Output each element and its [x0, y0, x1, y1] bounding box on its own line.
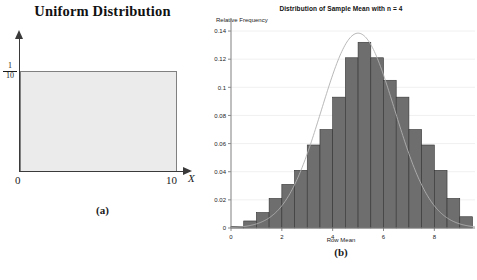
y-axis-ticks: 00.020.040.060.080.10.120.14: [214, 28, 231, 231]
y-tick-label: 0.08: [214, 113, 226, 119]
fraction-denominator: 10: [2, 72, 18, 80]
panel-a-x-variable-label: X: [188, 172, 195, 184]
panel-a-title: Uniform Distribution: [0, 3, 205, 20]
uniform-density-rectangle: [20, 71, 177, 171]
histogram-bar: [422, 145, 435, 228]
panel-b-caption: (b): [205, 246, 477, 258]
y-tick-label: 0: [223, 225, 227, 231]
histogram-bar: [256, 213, 269, 228]
y-tick-label: 0.1: [218, 85, 227, 91]
histogram-bar: [282, 184, 295, 228]
histogram-bar: [434, 170, 447, 228]
histogram-plot: 00.020.040.060.080.10.120.14 02468: [205, 0, 477, 260]
y-tick-label: 0.14: [214, 28, 226, 34]
histogram-bar: [333, 97, 346, 228]
panel-b-x-axis-title: Row Mean: [205, 237, 477, 243]
fraction-numerator: 1: [2, 62, 18, 70]
panel-a-x-tick-label-0: 0: [15, 174, 21, 186]
panel-a-y-tick-label-one-tenth: 1 10: [2, 62, 18, 80]
histogram-bar: [358, 42, 371, 228]
y-tick-label: 0.06: [214, 141, 226, 147]
histogram-bar: [371, 58, 384, 228]
histogram-bar: [409, 130, 422, 228]
histogram-bar: [295, 170, 308, 228]
panel-a-x-axis: [19, 171, 184, 172]
histogram-bar: [320, 130, 333, 228]
panel-a-uniform-distribution: Uniform Distribution 1 10 0 10 X (a): [0, 0, 205, 255]
panel-b-sampling-distribution: Distribution of Sample Mean with n = 4 R…: [205, 0, 477, 280]
histogram-bar: [345, 58, 358, 228]
y-tick-label: 0.04: [214, 169, 226, 175]
y-tick-label: 0.02: [214, 197, 226, 203]
histogram-bar: [384, 80, 397, 228]
y-tick-label: 0.12: [214, 56, 226, 62]
histogram-bar: [307, 145, 320, 228]
histogram-bar: [396, 97, 409, 228]
figure-container: Uniform Distribution 1 10 0 10 X (a) Dis…: [0, 0, 477, 280]
panel-a-x-tick-label-10: 10: [166, 174, 177, 186]
panel-a-caption: (a): [0, 204, 205, 216]
